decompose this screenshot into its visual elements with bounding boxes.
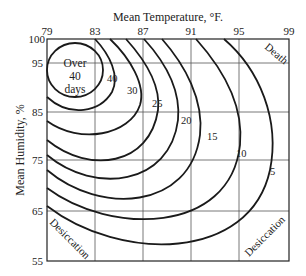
annotation-desiccation-right: Desiccation — [242, 213, 288, 259]
svg-text:40: 40 — [69, 70, 81, 82]
x-axis-title: Mean Temperature, °F. — [113, 10, 223, 24]
contour-label: 30 — [127, 85, 138, 96]
x-tick: 87 — [138, 25, 150, 37]
y-tick: 65 — [32, 205, 44, 217]
over-40-days-label: Over 40 days — [64, 57, 87, 96]
annotation-desiccation-left: Desiccation — [48, 216, 94, 262]
x-tick-labels: 79 83 87 91 95 99 — [42, 25, 296, 37]
svg-text:Over: Over — [64, 57, 87, 69]
contour-label: 25 — [152, 98, 163, 109]
contour-label: 5 — [270, 166, 275, 177]
x-tick: 83 — [90, 25, 102, 37]
y-tick: 100 — [29, 33, 46, 45]
contour-label: 20 — [181, 115, 192, 126]
y-tick-labels: 100 95 85 75 65 55 — [29, 33, 46, 267]
temperature-humidity-contour-chart: Mean Temperature, °F. Mean Humidity, % 7… — [0, 0, 306, 276]
contour-label: 40 — [107, 73, 118, 84]
x-tick: 91 — [186, 25, 197, 37]
y-tick: 95 — [32, 57, 44, 69]
contour-label: 15 — [207, 131, 218, 142]
y-tick: 85 — [32, 106, 44, 118]
y-tick: 75 — [32, 154, 44, 166]
y-axis-title: Mean Humidity, % — [13, 104, 27, 196]
x-tick: 95 — [234, 25, 246, 37]
x-tick: 99 — [284, 25, 296, 37]
y-tick: 55 — [32, 255, 44, 267]
svg-text:days: days — [64, 83, 86, 96]
contour-label: 10 — [236, 148, 247, 159]
